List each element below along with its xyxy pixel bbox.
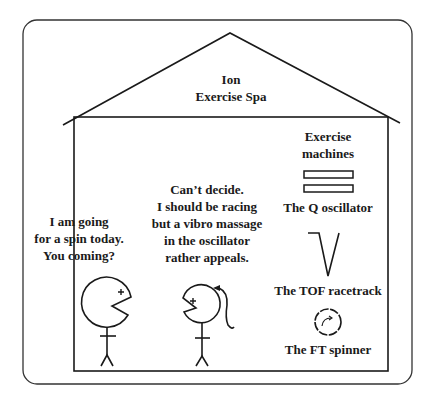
person-left bbox=[82, 277, 131, 366]
spa-title-line2: Exercise Spa bbox=[180, 88, 282, 105]
q-oscillator-icon bbox=[304, 171, 353, 192]
machine-label-tof-racetrack: The TOF racetrack bbox=[266, 282, 390, 299]
speech-right-line: rather appeals. bbox=[140, 249, 274, 266]
speech-left: I am going for a spin today. You coming? bbox=[24, 213, 134, 264]
speech-right-line: I should be racing bbox=[140, 198, 274, 215]
person-right bbox=[183, 285, 234, 366]
machines-heading: Exercise machines bbox=[290, 128, 366, 162]
ft-spinner-icon bbox=[315, 309, 341, 335]
tof-racetrack-icon bbox=[308, 233, 339, 276]
machine-label-ft-spinner: The FT spinner bbox=[278, 341, 378, 358]
spa-title-line1: Ion bbox=[180, 71, 282, 88]
speech-right: Can’t decide. I should be racing but a v… bbox=[140, 181, 274, 266]
machine-label-q-oscillator: The Q oscillator bbox=[268, 199, 388, 216]
speech-left-line: I am going bbox=[24, 213, 134, 230]
speech-right-line: Can’t decide. bbox=[140, 181, 274, 198]
speech-right-line: but a vibro massage bbox=[140, 215, 274, 232]
spa-title: Ion Exercise Spa bbox=[180, 71, 282, 105]
speech-right-line: in the oscillator bbox=[140, 232, 274, 249]
machines-heading-line2: machines bbox=[290, 145, 366, 162]
machines-heading-line1: Exercise bbox=[290, 128, 366, 145]
speech-left-line: for a spin today. bbox=[24, 230, 134, 247]
speech-left-line: You coming? bbox=[24, 247, 134, 264]
